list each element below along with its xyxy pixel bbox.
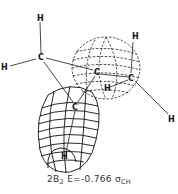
atom-label: C (38, 53, 44, 62)
energy-value: E=-0.766 (67, 174, 112, 184)
atom-label: H (1, 63, 8, 72)
bonds (10, 22, 168, 152)
solid-orbital-lobe (38, 86, 99, 173)
atom-label: H (104, 84, 111, 93)
atom-label: C (94, 68, 100, 77)
atom-label: H (61, 152, 68, 161)
state-label: 2B2 (47, 174, 64, 184)
atom-label: H (132, 32, 139, 41)
atom-label: H (168, 115, 175, 124)
atom-label: C (72, 103, 78, 112)
atom-label: H (37, 14, 44, 23)
orbital-label: σCH (115, 174, 131, 184)
atom-label: C (128, 74, 134, 83)
figure-caption: 2B2 E=-0.766 σCH (0, 174, 178, 186)
orbital-diagram: H C H C C H H H C H (0, 0, 178, 194)
